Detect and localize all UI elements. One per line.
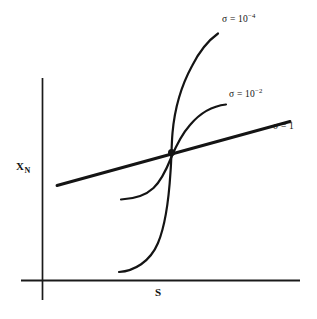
y-axis-label: XN: [16, 161, 30, 172]
series-label-sigma-1: σ = 1: [273, 122, 294, 132]
y-axis-label-subscript: N: [24, 166, 30, 175]
series-label-sigma-1e-4: σ = 10−4: [222, 15, 256, 25]
crossing-point-marker: [168, 149, 175, 156]
series-label-sigma-1e-2: σ = 10−2: [229, 90, 263, 100]
series-label-sigma-1e-2-text: σ = 10: [229, 89, 255, 99]
y-axis-label-base: X: [16, 160, 24, 172]
figure-container: σ = 10−4 σ = 10−2 σ = 1 XN S: [0, 0, 317, 319]
series-label-sigma-1e-2-exponent: −2: [255, 87, 263, 94]
series-label-sigma-1e-4-text: σ = 10: [222, 14, 248, 24]
plot-canvas: [0, 0, 317, 319]
series-label-sigma-1e-4-exponent: −4: [248, 12, 256, 19]
x-axis-label: S: [155, 287, 161, 298]
series-label-sigma-1-text: σ = 1: [273, 121, 294, 131]
